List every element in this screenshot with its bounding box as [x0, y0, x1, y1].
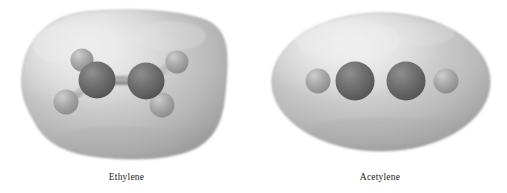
molecule-scene — [0, 0, 507, 193]
atom-carbon-left — [336, 62, 375, 101]
atom-carbon-right — [387, 62, 426, 101]
atom-hydrogen-upper-right — [166, 51, 189, 74]
atom-hydrogen-right — [434, 69, 459, 94]
acetylene-molecule — [272, 13, 490, 151]
ethylene-molecule — [22, 10, 227, 159]
atom-hydrogen-lower-left — [54, 90, 79, 115]
caption-ethylene: Ethylene — [0, 172, 253, 182]
atom-carbon-left — [79, 62, 116, 99]
molecule-figure: Ethylene Acetylene — [0, 0, 507, 193]
atom-carbon-right — [128, 63, 165, 100]
atom-hydrogen-left — [306, 69, 331, 94]
caption-acetylene: Acetylene — [253, 172, 507, 182]
